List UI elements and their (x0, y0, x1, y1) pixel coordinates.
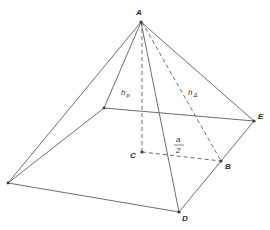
pyramid-diagram: A E B C D hp hΔ a 2 (0, 0, 270, 230)
label-c: C (130, 151, 136, 160)
point-c (140, 150, 143, 153)
label-triangle-height: hΔ (188, 88, 197, 98)
label-b: B (225, 162, 231, 171)
label-pyramid-height-main: h (121, 88, 126, 97)
point-a (139, 20, 142, 23)
base-edge-front (8, 183, 179, 212)
point-b (219, 159, 222, 162)
label-pyramid-height-sub: p (125, 92, 130, 98)
half-side-line (142, 152, 221, 161)
base-edge-left (8, 108, 104, 183)
label-d: D (182, 214, 188, 223)
base-edge-right (179, 121, 254, 212)
label-triangle-height-main: h (188, 88, 193, 97)
label-half-side-numerator: a (176, 135, 181, 144)
label-triangle-height-sub: Δ (192, 92, 197, 98)
label-a: A (135, 8, 142, 17)
triangle-height-line (142, 22, 221, 161)
point-front-left (7, 182, 10, 185)
label-pyramid-height: hp (121, 88, 130, 98)
point-d (177, 210, 180, 213)
label-half-side-denominator: 2 (175, 146, 181, 155)
lateral-edge-a-frontleft (8, 22, 141, 183)
point-e (252, 119, 255, 122)
label-e: E (258, 112, 264, 121)
point-back-left (103, 107, 106, 110)
base-edge-back (104, 108, 254, 121)
